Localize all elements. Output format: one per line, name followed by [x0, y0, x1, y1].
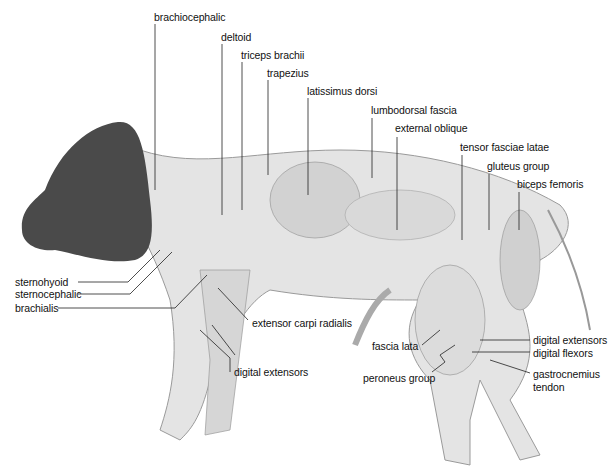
label-sternohyoid: sternohyoid — [15, 276, 68, 288]
biceps-femoris-muscle — [500, 210, 540, 310]
label-gluteus-group: gluteus group — [487, 160, 549, 172]
thigh-muscle — [415, 265, 485, 375]
label-external-oblique: external oblique — [395, 122, 468, 134]
label-triceps-brachii: triceps brachii — [241, 49, 304, 61]
label-sternocephalic: sternocephalic — [15, 288, 81, 300]
label-gastrocnemius-tendon: tendon — [533, 381, 565, 393]
label-deltoid: deltoid — [221, 31, 251, 43]
pig-head — [22, 122, 152, 261]
label-brachiocephalic: brachiocephalic — [154, 11, 225, 23]
label-digital-flexors: digital flexors — [533, 347, 593, 359]
label-extensor-carpi-radialis: extensor carpi radialis — [252, 317, 352, 329]
label-trapezius: trapezius — [267, 67, 309, 79]
label-brachialis: brachialis — [15, 302, 58, 314]
label-tensor-fasciae-latae: tensor fasciae latae — [460, 141, 549, 153]
label-biceps-femoris: biceps femoris — [517, 178, 583, 190]
label-lumbodorsal-fascia: lumbodorsal fascia — [371, 104, 457, 116]
label-digital-extensors-fore: digital extensors — [234, 366, 308, 378]
label-latissimus-dorsi: latissimus dorsi — [307, 85, 377, 97]
latissimus-muscle — [270, 162, 360, 238]
label-fascia-lata: fascia lata — [372, 340, 418, 352]
label-peroneus-group: peroneus group — [363, 372, 435, 384]
label-gastrocnemius: gastrocnemius — [533, 368, 600, 380]
label-digital-extensors-hind: digital extensors — [533, 334, 607, 346]
oblique-muscle — [345, 190, 455, 240]
